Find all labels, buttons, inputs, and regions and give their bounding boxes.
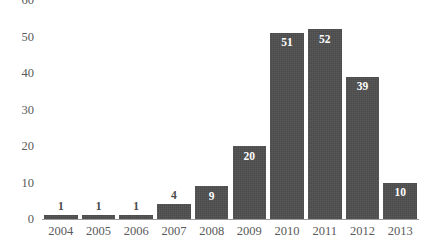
bars-layer: 111492051523910 — [42, 0, 419, 219]
bar-slot: 4 — [155, 0, 193, 219]
x-axis-tick-label: 2007 — [155, 225, 193, 238]
bar-value-label: 20 — [231, 151, 269, 163]
bar-value-label: 1 — [42, 201, 80, 213]
bar-slot: 39 — [344, 0, 382, 219]
bar[interactable] — [308, 29, 342, 219]
x-axis-tick-label: 2008 — [193, 225, 231, 238]
bar-value-label: 39 — [344, 81, 382, 93]
x-axis-tick-label: 2004 — [42, 225, 80, 238]
y-axis: 0102030405060 — [0, 0, 42, 251]
bar-slot: 20 — [231, 0, 269, 219]
y-axis-tick-label: 10 — [22, 176, 35, 189]
bar[interactable] — [157, 204, 191, 219]
y-axis-tick-label: 40 — [22, 67, 35, 80]
x-axis-tick-label: 2012 — [344, 225, 382, 238]
bar-value-label: 1 — [117, 201, 155, 213]
x-axis-tick-label: 2010 — [268, 225, 306, 238]
bar[interactable] — [346, 77, 380, 219]
bar-slot: 1 — [117, 0, 155, 219]
bar[interactable] — [270, 33, 304, 219]
x-axis-tick-label: 2009 — [231, 225, 269, 238]
bar-value-label: 1 — [80, 201, 118, 213]
plot-area: 111492051523910 — [42, 0, 419, 251]
bar-chart: 0102030405060 111492051523910 2004200520… — [0, 0, 431, 251]
bar-value-label: 51 — [268, 37, 306, 49]
x-axis-tick-label: 2006 — [117, 225, 155, 238]
x-axis-tick-label: 2011 — [306, 225, 344, 238]
bar-slot: 52 — [306, 0, 344, 219]
bar-slot: 1 — [80, 0, 118, 219]
bar-slot: 51 — [268, 0, 306, 219]
y-axis-tick-label: 60 — [22, 0, 35, 6]
bar-value-label: 9 — [193, 191, 231, 203]
x-axis-tick-label: 2005 — [80, 225, 118, 238]
bar-slot: 10 — [381, 0, 419, 219]
x-axis: 2004200520062007200820092010201120122013 — [42, 221, 419, 251]
bar-value-label: 52 — [306, 34, 344, 46]
x-axis-tick-label: 2013 — [381, 225, 419, 238]
y-axis-tick-label: 30 — [22, 103, 35, 116]
y-axis-tick-label: 20 — [22, 140, 35, 153]
bar-value-label: 4 — [155, 190, 193, 202]
bar-slot: 1 — [42, 0, 80, 219]
bar-value-label: 10 — [381, 187, 419, 199]
x-axis-line — [42, 219, 419, 220]
bar-slot: 9 — [193, 0, 231, 219]
y-axis-tick-label: 0 — [28, 213, 34, 226]
y-axis-tick-label: 50 — [22, 30, 35, 43]
